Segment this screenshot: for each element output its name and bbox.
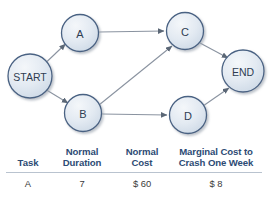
table-header: Task Normal Duration Normal Cost Margina… [6, 146, 262, 172]
table-row: A 7 $ 60 $ 8 [6, 172, 262, 190]
column-header-task: Task [6, 146, 50, 172]
node-start[interactable]: START [8, 54, 52, 98]
node-c[interactable]: C [167, 13, 204, 50]
edge-b-to-c [99, 46, 172, 105]
node-a-label: A [76, 28, 84, 40]
node-b[interactable]: B [65, 95, 102, 132]
edge-c-to-end [200, 43, 228, 58]
edge-start-to-a [47, 44, 66, 62]
column-header-normal-duration: Normal Duration [50, 146, 114, 172]
column-header-normal-cost-line2: Cost [114, 157, 170, 168]
cell-marginal-crash-cost: $ 8 [170, 172, 262, 190]
node-end-label: END [232, 66, 255, 78]
node-d-label: D [184, 110, 192, 122]
crash-cost-table: Task Normal Duration Normal Cost Margina… [6, 146, 262, 190]
network-diagram: START A B C D END [0, 0, 274, 148]
edge-start-to-b [47, 90, 69, 103]
column-header-marginal-line1: Marginal Cost to [170, 146, 262, 157]
column-header-task-text: Task [18, 157, 39, 168]
column-header-marginal-crash-cost: Marginal Cost to Crash One Week [170, 146, 262, 172]
node-start-label: START [13, 71, 47, 83]
table-header-row: Task Normal Duration Normal Cost Margina… [6, 146, 262, 172]
edge-a-to-c [99, 31, 164, 32]
edge-d-to-end [203, 88, 229, 106]
cell-task: A [6, 172, 50, 190]
node-end[interactable]: END [222, 50, 264, 92]
node-c-label: C [181, 26, 189, 38]
crash-cost-table-container: Task Normal Duration Normal Cost Margina… [0, 146, 274, 201]
column-header-normal-cost: Normal Cost [114, 146, 170, 172]
cell-normal-cost: $ 60 [114, 172, 170, 190]
column-header-normal-duration-line2: Duration [50, 157, 114, 168]
table-body: A 7 $ 60 $ 8 [6, 172, 262, 190]
column-header-normal-cost-line1: Normal [114, 146, 170, 157]
cell-normal-duration: 7 [50, 172, 114, 190]
node-a[interactable]: A [62, 15, 99, 52]
column-header-normal-duration-line1: Normal [50, 146, 114, 157]
edge-b-to-d [102, 114, 167, 115]
node-b-label: B [79, 108, 86, 120]
column-header-marginal-line2: Crash One Week [170, 157, 262, 168]
project-network-figure: START A B C D END [0, 0, 274, 201]
node-d[interactable]: D [170, 97, 207, 134]
